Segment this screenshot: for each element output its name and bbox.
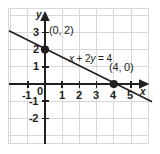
- x-tick-label-1: 1: [59, 90, 65, 101]
- x-tick-label-neg1: -1: [22, 90, 31, 101]
- x-tick-label-4: 4: [110, 90, 116, 101]
- data-point-y-intercept: [41, 46, 49, 54]
- y-axis-label: y: [36, 10, 42, 20]
- origin-label: 0: [37, 86, 43, 97]
- x-tick-label-5: 5: [127, 90, 133, 101]
- point-label-x-intercept: (4, 0): [109, 62, 133, 73]
- y-tick-label-2: 2: [33, 44, 39, 55]
- coordinate-graph-figure: y x 3 2 1 -1 -2 0 -1 1 2 3 4 5 (0, 2) (4…: [0, 0, 160, 154]
- point-label-y-intercept: (0, 2): [49, 25, 73, 36]
- y-tick-label-neg2: -2: [29, 113, 38, 124]
- data-point-x-intercept: [110, 80, 118, 88]
- equation-equals: = 4: [95, 53, 112, 64]
- equation-label: x + 2y = 4: [69, 54, 112, 64]
- y-tick-label-3: 3: [33, 27, 39, 38]
- x-tick-label-2: 2: [76, 90, 82, 101]
- x-tick-label-3: 3: [93, 90, 99, 101]
- x-axis-label: x: [140, 87, 146, 97]
- equation-plus: + 2: [74, 53, 91, 64]
- graph-canvas: [0, 0, 160, 154]
- y-tick-label-1: 1: [33, 61, 39, 72]
